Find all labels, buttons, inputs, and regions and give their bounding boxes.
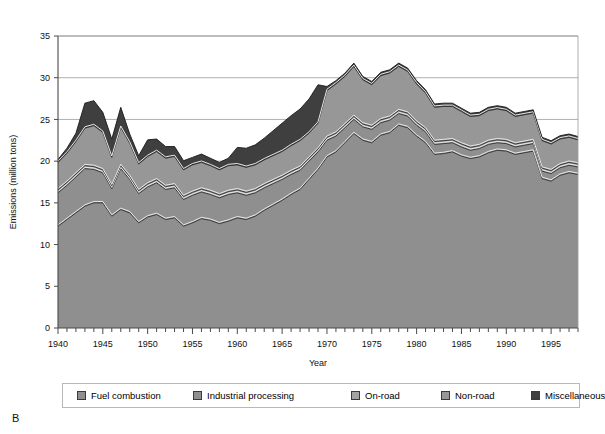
x-tick-label: 1955 — [182, 339, 202, 349]
stacked-area-chart: 05101520253035 1940194519501955196019651… — [0, 0, 601, 380]
y-tick-label: 20 — [40, 156, 50, 166]
y-tick-label: 15 — [40, 198, 50, 208]
x-tick-label: 1945 — [93, 339, 113, 349]
legend-swatch — [531, 391, 540, 400]
y-axis-ticks: 05101520253035 — [40, 31, 58, 333]
y-tick-label: 35 — [40, 31, 50, 41]
legend-item[interactable]: Non-road — [441, 391, 495, 401]
y-tick-label: 5 — [45, 281, 50, 291]
legend-label: Non-road — [455, 391, 495, 401]
x-tick-label: 1970 — [317, 339, 337, 349]
x-axis-ticks: 1940194519501955196019651970197519801985… — [48, 328, 578, 349]
x-tick-label: 1995 — [541, 339, 561, 349]
x-tick-label: 1980 — [407, 339, 427, 349]
y-tick-label: 25 — [40, 115, 50, 125]
x-tick-label: 1975 — [362, 339, 382, 349]
legend-swatch — [351, 391, 360, 400]
x-tick-label: 1940 — [48, 339, 68, 349]
x-tick-label: 1950 — [138, 339, 158, 349]
legend-label: Fuel combustion — [91, 391, 161, 401]
legend-item[interactable]: Miscellaneous — [531, 391, 605, 401]
legend-item[interactable]: Fuel combustion — [77, 391, 161, 401]
x-axis-title: Year — [309, 358, 327, 368]
x-tick-label: 1965 — [272, 339, 292, 349]
legend-label: Industrial processing — [207, 391, 294, 401]
panel-letter: B — [12, 412, 19, 424]
legend-swatch — [77, 391, 86, 400]
y-tick-label: 30 — [40, 73, 50, 83]
legend-item[interactable]: On-road — [351, 391, 400, 401]
legend-label: On-road — [365, 391, 400, 401]
x-tick-label: 1960 — [227, 339, 247, 349]
y-tick-label: 0 — [45, 323, 50, 333]
legend-swatch — [441, 391, 450, 400]
y-tick-label: 10 — [40, 240, 50, 250]
x-tick-label: 1985 — [451, 339, 471, 349]
legend-swatch — [193, 391, 202, 400]
y-axis-title: Emissions (million tons) — [8, 135, 18, 230]
chart-legend: Fuel combustionIndustrial processingOn-r… — [62, 383, 580, 408]
legend-item[interactable]: Industrial processing — [193, 391, 294, 401]
legend-label: Miscellaneous — [545, 391, 605, 401]
x-tick-label: 1990 — [496, 339, 516, 349]
